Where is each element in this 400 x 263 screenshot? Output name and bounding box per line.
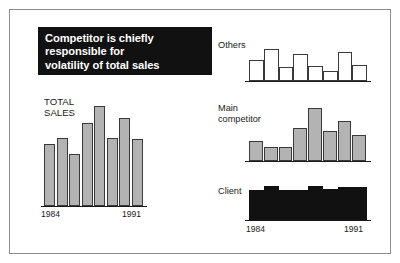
others-title: Others bbox=[218, 40, 246, 51]
bar bbox=[293, 54, 308, 81]
main-competitor-plot-area bbox=[249, 108, 367, 161]
client-title: Client bbox=[218, 186, 242, 197]
bar bbox=[44, 144, 55, 206]
client-tick-1991: 1991 bbox=[344, 224, 363, 234]
bar bbox=[57, 138, 68, 206]
client-tick-1984: 1984 bbox=[246, 224, 265, 234]
bar bbox=[352, 65, 367, 81]
bar bbox=[249, 60, 264, 81]
client-plot-area bbox=[249, 186, 367, 220]
total-sales-plot-area bbox=[44, 106, 144, 206]
others-x-axis bbox=[245, 81, 371, 82]
bar bbox=[323, 71, 338, 81]
main-competitor-x-axis bbox=[245, 161, 371, 162]
bar bbox=[308, 186, 323, 220]
bar bbox=[249, 141, 263, 161]
bar bbox=[279, 67, 294, 81]
bar bbox=[264, 186, 279, 220]
bar bbox=[279, 190, 294, 220]
title-banner: Competitor is chiefly responsible for vo… bbox=[38, 27, 212, 75]
bar bbox=[69, 154, 80, 206]
banner-line-1: Competitor is chiefly bbox=[45, 32, 212, 45]
slide-canvas: Competitor is chiefly responsible for vo… bbox=[0, 0, 400, 263]
banner-line-2: responsible for bbox=[45, 45, 212, 58]
bar bbox=[249, 190, 264, 220]
bar bbox=[264, 147, 278, 161]
total-sales-tick-1991: 1991 bbox=[122, 209, 141, 219]
bar bbox=[107, 138, 118, 206]
banner-line-3: volatility of total sales bbox=[45, 59, 212, 72]
bar bbox=[352, 187, 367, 220]
bar bbox=[308, 108, 322, 161]
total-sales-tick-1984: 1984 bbox=[41, 209, 60, 219]
bar bbox=[94, 106, 105, 206]
bar bbox=[279, 147, 293, 161]
bar bbox=[82, 123, 93, 206]
bar bbox=[293, 128, 307, 161]
others-plot-area bbox=[249, 49, 367, 81]
bar bbox=[338, 52, 353, 81]
bar bbox=[308, 66, 323, 81]
bar bbox=[323, 131, 337, 161]
bar bbox=[352, 135, 366, 162]
bar bbox=[293, 190, 308, 220]
bar bbox=[323, 189, 338, 220]
client-x-axis bbox=[245, 220, 371, 221]
bar bbox=[132, 139, 143, 206]
bar bbox=[338, 187, 353, 220]
bar bbox=[119, 118, 130, 206]
bar bbox=[338, 121, 352, 161]
bar bbox=[264, 49, 279, 81]
total-sales-x-axis bbox=[41, 206, 147, 207]
